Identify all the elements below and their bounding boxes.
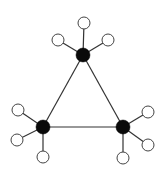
hub-node-right bbox=[116, 120, 130, 134]
edges-layer bbox=[17, 23, 148, 158]
leaf-node bbox=[52, 34, 64, 46]
hub-node-top bbox=[76, 48, 90, 62]
leaf-node bbox=[142, 139, 154, 151]
leaf-nodes-layer bbox=[11, 17, 154, 164]
hub-nodes-layer bbox=[36, 48, 130, 134]
leaf-node bbox=[37, 151, 49, 163]
leaf-node bbox=[102, 34, 114, 46]
leaf-node bbox=[78, 17, 90, 29]
leaf-node bbox=[11, 134, 23, 146]
leaf-node bbox=[117, 152, 129, 164]
molecule-diagram bbox=[0, 0, 164, 171]
leaf-node bbox=[12, 104, 24, 116]
triangle-edge bbox=[43, 55, 83, 127]
hub-node-left bbox=[36, 120, 50, 134]
triangle-edge bbox=[83, 55, 123, 127]
leaf-node bbox=[142, 106, 154, 118]
